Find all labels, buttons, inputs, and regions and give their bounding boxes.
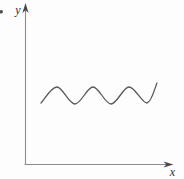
x-axis-label: x	[169, 165, 176, 179]
x-axis	[25, 161, 174, 167]
y-axis-label: y	[14, 3, 21, 17]
sine-wave-path	[41, 83, 157, 104]
y-axis	[22, 3, 28, 165]
figure-canvas: y x	[0, 0, 184, 179]
stray-bullet-dot	[0, 10, 3, 13]
sine-wave-diagram: y x	[0, 0, 184, 179]
